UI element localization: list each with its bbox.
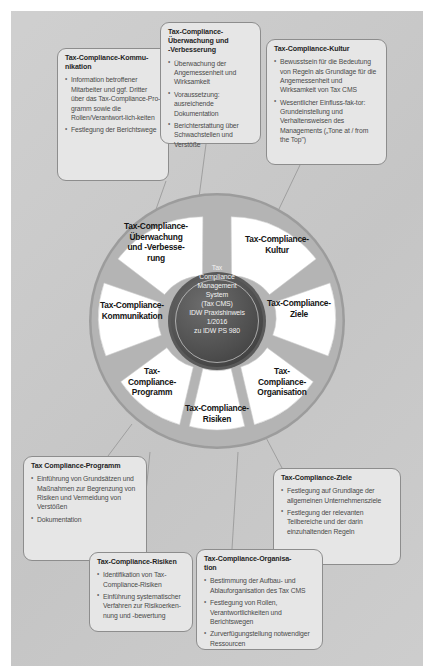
callout-kultur[interactable]: Tax-Compliance-Kultur Bewusstsein für di… (266, 39, 387, 165)
callout-title-line: nikation (65, 63, 161, 72)
callout-title: Tax-Compliance-Kommu-nikation (65, 54, 161, 72)
callout-bullet: Einführung systematischer Verfahren zur … (97, 592, 185, 620)
callout-bullet: Information betroffener Mitarbeiter und … (65, 75, 161, 122)
segment-label-line: Tax- (239, 366, 325, 377)
callout-title-line: Tax-Compliance-Ziele (281, 474, 393, 483)
connector-organisation (232, 452, 238, 549)
callout-list: Bestimmung der Aufbau- und Ablauforganis… (204, 576, 315, 648)
callout-bullet: Wesentlicher Einfluss-fak-tor: Grundeins… (274, 98, 379, 145)
hub-label: TaxComplianceManagementSystem(Tax CMS)ID… (167, 264, 267, 336)
segment-label-line: Tax-Compliance- (256, 298, 342, 309)
callout-list: Information betroffener Mitarbeiter und … (65, 75, 161, 134)
segment-label-line: Programm (109, 387, 195, 398)
segment-label-line: Tax-Compliance- (174, 403, 260, 414)
segment-label-line: Kultur (234, 245, 320, 256)
hub-line: Compliance (167, 273, 267, 282)
callout-title-line: Tax-Compliance- (168, 28, 253, 37)
callout-bullet: Festlegung der Berichtswege (65, 125, 161, 134)
hub-line: IDW Praxishinweis (167, 309, 267, 318)
callout-bullet: Überwachung der Angemessenheit und Wirks… (168, 59, 253, 87)
hub-line: Tax (167, 264, 267, 273)
segment-label-line: Tax- (109, 366, 195, 377)
segment-label-line: Überwachung (113, 232, 199, 243)
callout-list: Einführung von Grundsätzen und Maßnahmen… (31, 474, 139, 524)
callout-list: Überwachung der Angemessenheit und Wirks… (168, 59, 253, 149)
callout-title: Tax Compliance-Programm (31, 462, 139, 471)
segment-label-line: Risiken (174, 414, 260, 425)
hub-line: (Tax CMS) (167, 300, 267, 309)
segment-label-programm: Tax-Compliance-Programm (109, 366, 195, 398)
callout-kommunikation[interactable]: Tax-Compliance-Kommu-nikation Informatio… (57, 48, 169, 181)
segment-label-line: Organisation (239, 387, 325, 398)
segment-label-kommunikation: Tax-Compliance-Kommunikation (89, 300, 175, 321)
callout-title: Tax-Compliance-Risiken (97, 558, 185, 567)
segment-label-line: Ziele (256, 309, 342, 320)
segment-label-line: Tax-Compliance- (89, 300, 175, 311)
hub-line: Management (167, 282, 267, 291)
callout-bullet: Bestimmung der Aufbau- und Ablauforganis… (204, 576, 315, 595)
callout-title-line: Tax Compliance-Programm (31, 462, 139, 471)
callout-title-line: Tax-Compliance-Risiken (97, 558, 185, 567)
callout-title-line: -Verbesserung (168, 46, 253, 55)
hub-line: 1/2016 (167, 318, 267, 327)
callout-title-line: tion (204, 564, 315, 573)
segment-label-line: Tax-Compliance- (113, 221, 199, 232)
segment-label-line: rung (113, 253, 199, 264)
callout-title-line: Tax-Compliance-Kommu- (65, 54, 161, 63)
callout-bullet: Festlegung der relevanten Teilbereiche u… (281, 508, 393, 536)
segment-label-organisation: Tax-Compliance-Organisation (239, 366, 325, 398)
callout-bullet: Voraussetzung: ausreichende Dokumentatio… (168, 90, 253, 118)
tax-cms-wheel: TaxComplianceManagementSystem(Tax CMS)ID… (88, 192, 346, 450)
page-root: TaxComplianceManagementSystem(Tax CMS)ID… (0, 0, 423, 666)
callout-title-line: Tax-Compliance-Organisa- (204, 555, 315, 564)
segment-label-kultur: Tax-Compliance-Kultur (234, 234, 320, 255)
callout-title: Tax-Compliance-Überwachung und-Verbesser… (168, 28, 253, 56)
segment-label-line: Tax-Compliance- (234, 234, 320, 245)
segment-label-ueberwachung: Tax-Compliance-Überwachungund -Verbesse-… (113, 221, 199, 264)
hub-line: System (167, 291, 267, 300)
segment-label-line: und -Verbesse- (113, 242, 199, 253)
callout-organisation[interactable]: Tax-Compliance-Organisa-tion Bestimmung … (196, 549, 323, 650)
callout-title-line: Überwachung und (168, 37, 253, 46)
segment-label-line: Kommunikation (89, 311, 175, 322)
callout-bullet: Festlegung von Rollen, Verantwortlichkei… (204, 598, 315, 626)
callout-bullet: Dokumentation (31, 515, 139, 524)
callout-bullet: Festlegung auf Grundlage der allgemeinen… (281, 486, 393, 505)
callout-bullet: Berichterstattung über Schwachstellen un… (168, 121, 253, 149)
callout-title: Tax-Compliance-Organisa-tion (204, 555, 315, 573)
callout-ueberwachung[interactable]: Tax-Compliance-Überwachung und-Verbesser… (160, 22, 261, 144)
callout-list: Identifikation von Tax-Compliance-Risike… (97, 570, 185, 620)
callout-list: Bewusstsein für die Bedeutung von Regeln… (274, 57, 379, 144)
callout-bullet: Zurverfügungstellung notwendiger Ressour… (204, 629, 315, 648)
callout-risiken[interactable]: Tax-Compliance-Risiken Identifikation vo… (89, 552, 193, 632)
segment-label-risiken: Tax-Compliance-Risiken (174, 403, 260, 424)
callout-title: Tax-Compliance-Ziele (281, 474, 393, 483)
callout-bullet: Einführung von Grundsätzen und Maßnahmen… (31, 474, 139, 512)
callout-programm[interactable]: Tax Compliance-Programm Einführung von G… (23, 456, 147, 561)
callout-title-line: Tax-Compliance-Kultur (274, 45, 379, 54)
callout-list: Festlegung auf Grundlage der allgemeinen… (281, 486, 393, 536)
segment-label-ziele: Tax-Compliance-Ziele (256, 298, 342, 319)
callout-bullet: Identifikation von Tax-Compliance-Risike… (97, 570, 185, 589)
hub-line: zu IDW PS 980 (167, 327, 267, 336)
segment-label-line: Compliance- (239, 377, 325, 388)
segment-label-line: Compliance- (109, 377, 195, 388)
callout-bullet: Bewusstsein für die Bedeutung von Regeln… (274, 57, 379, 95)
callout-title: Tax-Compliance-Kultur (274, 45, 379, 54)
